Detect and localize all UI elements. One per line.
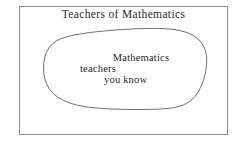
subset-label-line-1: Mathematics (64, 52, 184, 63)
subset-set-label: Mathematics teachers you know (64, 52, 184, 86)
subset-label-line-2: teachers (64, 63, 184, 74)
diagram-stage: Teachers of Mathematics Mathematics teac… (0, 0, 243, 146)
diagram-canvas: Teachers of Mathematics Mathematics teac… (0, 0, 243, 146)
universe-set-label: Teachers of Mathematics (19, 8, 228, 20)
subset-label-line-3: you know (64, 74, 184, 85)
